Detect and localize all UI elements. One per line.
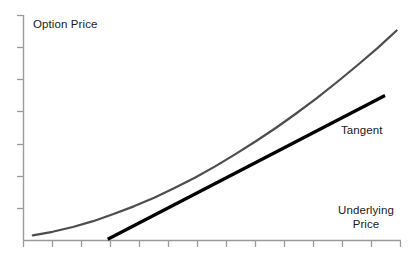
x-axis-title: Underlying Price (330, 203, 402, 231)
chart-figure: Option Price Tangent Underlying Price (0, 0, 408, 256)
y-axis-title: Option Price (33, 17, 97, 31)
x-axis-title-line-1: Underlying (330, 203, 402, 217)
x-axis-title-line-2: Price (330, 217, 402, 231)
tangent-label: Tangent (341, 123, 383, 137)
x-axis-ticks (24, 241, 401, 247)
y-axis-ticks (17, 16, 23, 209)
